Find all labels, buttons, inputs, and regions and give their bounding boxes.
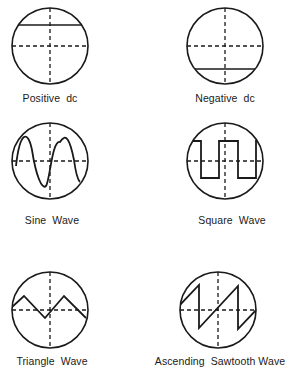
label-square-wave: Square Wave	[198, 214, 265, 226]
scope-sawtooth-wave	[178, 272, 258, 348]
label-sawtooth-wave: Ascending Sawtooth Wave	[155, 355, 285, 367]
square-trace	[190, 141, 262, 178]
waveform-diagram	[0, 0, 291, 382]
scope-triangle-wave	[12, 272, 88, 348]
label-triangle-wave: Triangle Wave	[16, 355, 87, 367]
label-sine-wave: Sine Wave	[25, 214, 79, 226]
scope-sine-wave	[12, 123, 88, 199]
label-positive-dc: Positive dc	[23, 92, 78, 104]
scope-positive-dc	[12, 8, 88, 84]
triangle-trace	[12, 296, 86, 318]
label-negative-dc: Negative dc	[195, 92, 255, 104]
scope-square-wave	[187, 123, 263, 199]
scope-negative-dc	[187, 8, 263, 84]
